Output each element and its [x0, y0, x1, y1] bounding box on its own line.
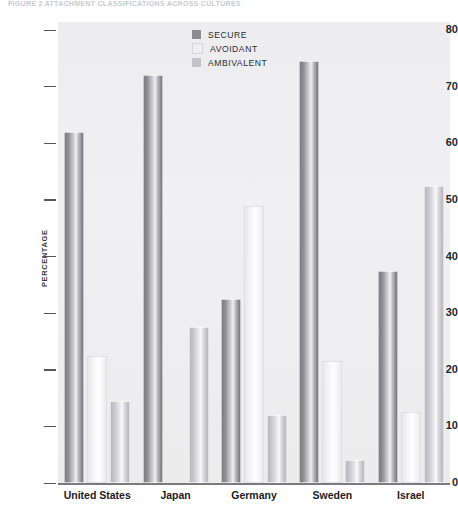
- bar: [221, 299, 241, 483]
- y-axis-tick: [44, 30, 56, 31]
- legend-item: AMBIVALENT: [192, 56, 312, 69]
- legend-item: SECURE: [192, 28, 312, 41]
- legend-swatch-icon: [192, 30, 201, 39]
- top-caption: FIGURE 2 ATTACHMENT CLASSIFICATIONS ACRO…: [8, 0, 338, 8]
- bar: [267, 415, 287, 483]
- y-axis-title: PERCENTAGE: [40, 218, 54, 298]
- bar: [424, 186, 444, 483]
- bars-layer: [58, 22, 450, 483]
- legend-item: AVOIDANT: [192, 42, 312, 55]
- bar: [87, 356, 107, 483]
- chart-legend: SECUREAVOIDANTAMBIVALENT: [192, 28, 312, 70]
- legend-label: AVOIDANT: [210, 44, 258, 54]
- y-axis-tick: [44, 313, 56, 314]
- y-axis-tick: [44, 369, 56, 370]
- legend-label: SECURE: [208, 30, 247, 40]
- y-axis-tick: [44, 199, 56, 200]
- y-axis-tick: [44, 426, 56, 427]
- bar: [378, 271, 398, 483]
- y-axis-tick: [44, 143, 56, 144]
- x-axis-category-label: Japan: [136, 489, 214, 501]
- bar: [345, 460, 365, 483]
- y-axis-tick: [44, 483, 56, 484]
- bar: [401, 412, 421, 483]
- x-axis-category-label: Israel: [372, 489, 450, 501]
- x-axis-category-label: Germany: [215, 489, 293, 501]
- bar: [143, 75, 163, 483]
- x-axis-line: [58, 483, 450, 485]
- x-axis-category-label: United States: [58, 489, 136, 501]
- bar: [244, 206, 264, 483]
- bar: [110, 401, 130, 483]
- bar: [64, 132, 84, 483]
- legend-swatch-icon: [192, 43, 203, 54]
- legend-swatch-icon: [192, 58, 201, 67]
- x-axis-category-label: Sweden: [293, 489, 371, 501]
- bar: [189, 327, 209, 483]
- bar: [299, 61, 319, 483]
- bar: [322, 361, 342, 483]
- legend-label: AMBIVALENT: [208, 58, 267, 68]
- bar-chart: FIGURE 2 ATTACHMENT CLASSIFICATIONS ACRO…: [0, 0, 458, 524]
- x-axis-labels: United StatesJapanGermanySwedenIsrael: [58, 489, 450, 511]
- y-axis-tick: [44, 86, 56, 87]
